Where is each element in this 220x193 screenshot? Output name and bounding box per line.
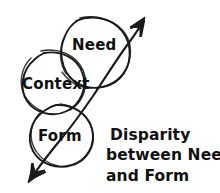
caption-line-3: and Form xyxy=(106,167,189,185)
caption-line-2: between Need xyxy=(106,146,220,164)
circle-need-label: Need xyxy=(72,36,116,54)
circle-context-label: Context xyxy=(22,75,90,93)
caption-line-1: Disparity xyxy=(110,126,190,144)
diagram-svg: Need Context Form Disparity between Need… xyxy=(0,0,220,193)
circle-form-label: Form xyxy=(38,127,82,145)
sketch-diagram-canvas: Need Context Form Disparity between Need… xyxy=(0,0,220,193)
caption-block: Disparity between Need and Form xyxy=(106,126,220,185)
